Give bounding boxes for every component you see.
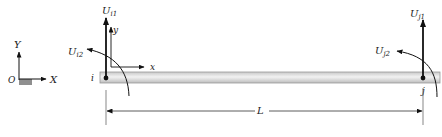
- node-j-label: j: [420, 86, 425, 96]
- local-y-label: y: [112, 25, 119, 35]
- length-dimension: L: [106, 88, 423, 125]
- global-y-label: Y: [14, 39, 22, 50]
- dof-uj2: Uj2: [375, 45, 437, 97]
- global-origin-label: O: [8, 75, 16, 85]
- dof-ui2: Ui2: [68, 46, 129, 96]
- length-label: L: [256, 105, 264, 116]
- uj1-label: Uj1: [410, 8, 425, 21]
- global-x-label: X: [49, 74, 58, 85]
- global-origin-block: [19, 79, 32, 85]
- uj2-label: Uj2: [375, 45, 391, 58]
- global-axes: Y X O: [8, 39, 58, 85]
- local-x-label: x: [150, 62, 155, 72]
- dof-uj1: Uj1: [410, 8, 425, 78]
- node-i-label: i: [91, 73, 94, 83]
- beam-element-diagram: Y X O i j y x Ui1 Ui2 Uj1 Uj2: [0, 0, 442, 137]
- ui1-label: Ui1: [102, 5, 117, 18]
- ui2-label: Ui2: [68, 46, 84, 59]
- beam-body: [100, 72, 440, 83]
- beam: i j: [91, 72, 440, 96]
